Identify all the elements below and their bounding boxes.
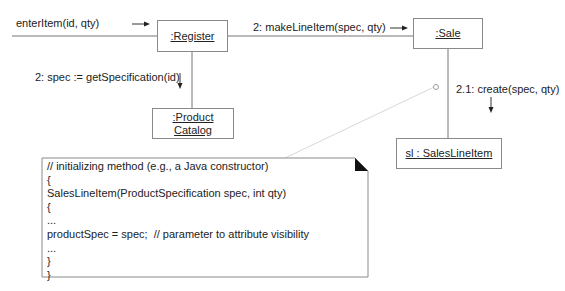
object-product-catalog[interactable]: :Product Catalog <box>152 108 234 139</box>
note-constructor-code: // initializing method (e.g., a Java con… <box>42 158 369 277</box>
note-line: } <box>47 255 369 269</box>
note-line: } <box>47 269 369 283</box>
arrow-create <box>489 97 494 113</box>
message-create: 2.1: create(spec, qty) <box>456 83 559 95</box>
message-enter-item: enterItem(id, qty) <box>16 17 99 29</box>
message-make-line-item: 2: makeLineItem(spec, qty) <box>253 21 386 33</box>
object-register-label: :Register <box>170 30 214 43</box>
note-line: SalesLineItem(ProductSpecification spec,… <box>47 187 369 201</box>
message-get-specification: 2: spec := getSpecification(id) <box>35 71 180 83</box>
object-sale-label: :Sale <box>435 27 460 40</box>
note-anchor-circle <box>434 85 439 90</box>
note-line: productSpec = spec; // parameter to attr… <box>47 228 369 242</box>
object-sale[interactable]: :Sale <box>413 18 483 49</box>
object-product-catalog-label-2: Catalog <box>174 124 212 137</box>
object-sales-line-item-label: sl : SalesLineItem <box>406 147 493 160</box>
arrow-enter-item <box>132 22 150 27</box>
object-register[interactable]: :Register <box>157 20 228 52</box>
object-sales-line-item[interactable]: sl : SalesLineItem <box>396 138 502 169</box>
object-product-catalog-label-1: :Product <box>173 111 214 124</box>
note-line: { <box>47 174 369 188</box>
note-line: { <box>47 201 369 215</box>
note-line: // initializing method (e.g., a Java con… <box>47 160 369 174</box>
note-line: ... <box>47 242 369 256</box>
note-line: ... <box>47 214 369 228</box>
arrow-make-line-item <box>390 26 408 31</box>
